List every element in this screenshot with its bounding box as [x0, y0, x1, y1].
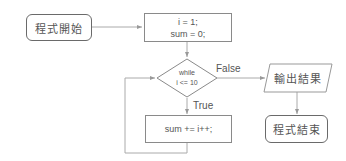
condition-line2: i <= 10 [167, 78, 207, 88]
start-terminal: 程式開始 [26, 14, 92, 41]
false-label: False [216, 63, 240, 74]
start-label: 程式開始 [35, 20, 83, 36]
end-label: 程式結束 [273, 121, 321, 137]
flowchart: 程式開始 i = 1; sum = 0; while i <= 10 False… [0, 0, 346, 161]
init-process-box: i = 1; sum = 0; [144, 13, 232, 42]
end-terminal: 程式結束 [265, 115, 328, 143]
init-line2: sum = 0; [171, 28, 206, 40]
loop-body-box: sum += i++; [145, 115, 232, 143]
body-label: sum += i++; [165, 123, 213, 135]
condition-text: while i <= 10 [167, 68, 207, 88]
true-label: True [193, 100, 213, 111]
output-label: 輸出結果 [266, 70, 330, 86]
init-line1: i = 1; [178, 16, 198, 28]
condition-line1: while [167, 68, 207, 78]
